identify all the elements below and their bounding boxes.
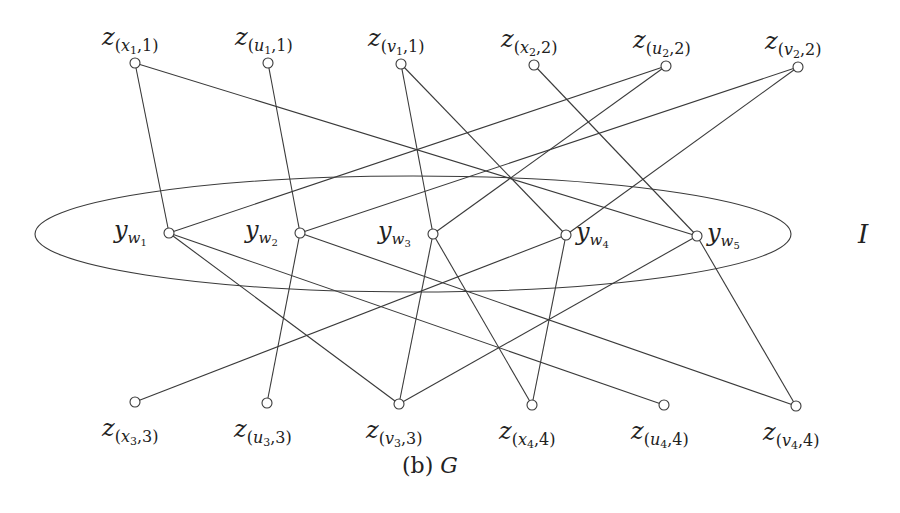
label-z_x3_3: z(x3,3) [102,416,158,441]
edge-y_w5-z_x1_1 [135,63,697,236]
figure-caption: (b) G [402,453,458,478]
vertex-y_w5 [692,231,702,241]
edge-y_w4-z_v2_2 [566,67,798,235]
caption-graph-name: G [440,453,458,478]
label-z_x2_2: z(x2,2) [501,27,557,52]
label-y_w2: yw2 [245,218,278,243]
label-y_w5: yw5 [707,221,740,246]
label-z_v1_1: z(v1,1) [368,26,424,51]
label-z_v3_3: z(v3,3) [366,418,422,443]
vertex-z_u2_2 [661,61,671,71]
label-y_w3: yw3 [378,219,411,244]
label-y_w4: yw4 [576,220,609,245]
caption-prefix: (b) [402,453,433,478]
label-z_u2_2: z(u2,2) [633,28,691,53]
vertex-y_w2 [295,228,305,238]
set-label-I: I [858,219,868,249]
vertex-z_v1_1 [396,59,406,69]
vertex-z_u4_4 [659,400,669,410]
independent-set-ellipse [35,176,791,292]
label-z_u3_3: z(u3,3) [234,417,292,442]
vertex-z_x3_3 [130,397,140,407]
vertex-z_x2_2 [529,60,539,70]
edge-y_w3-z_u2_2 [433,66,666,234]
edge-y_w4-z_v1_1 [401,64,566,235]
edge-y_w4-z_x3_3 [135,235,566,402]
vertex-z_x4_4 [527,400,537,410]
edge-y_w2-z_u3_3 [267,233,300,403]
label-z_x1_1: z(x1,1) [102,25,158,50]
vertex-y_w4 [561,230,571,240]
vertex-z_v4_4 [791,401,801,411]
vertex-y_w1 [164,228,174,238]
label-z_u1_1: z(u1,1) [235,25,293,50]
label-y_w1: yw1 [114,218,147,243]
edge-y_w2-z_u1_1 [268,63,300,233]
edge-y_w1-z_v3_3 [169,233,399,404]
edge-y_w5-z_v3_3 [399,236,697,404]
label-z_u4_4: z(u4,4) [631,419,689,444]
label-z_x4_4: z(x4,4) [499,419,555,444]
edge-y_w3-z_v1_1 [401,64,433,234]
edge-y_w3-z_x4_4 [433,234,532,405]
vertex-z_x1_1 [130,58,140,68]
edge-y_w3-z_v3_3 [399,234,433,404]
label-z_v4_4: z(v4,4) [763,420,819,445]
edge-y_w1-z_x1_1 [135,63,169,233]
vertex-z_v2_2 [793,62,803,72]
vertex-y_w3 [428,229,438,239]
node-layer [130,58,803,411]
vertex-z_u3_3 [262,398,272,408]
vertex-z_v3_3 [394,399,404,409]
label-z_v2_2: z(v2,2) [765,29,821,54]
vertex-z_u1_1 [263,58,273,68]
